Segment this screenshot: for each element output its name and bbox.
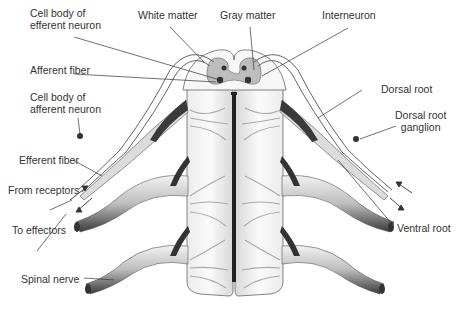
label-interneuron: Interneuron xyxy=(322,9,376,21)
label-dorsal-root: Dorsal root xyxy=(381,83,432,95)
label-to-effectors: To effectors xyxy=(12,224,66,236)
label-cell-body-efferent: Cell body of efferent neuron xyxy=(30,7,101,31)
dorsal-root-ganglion-right xyxy=(353,136,359,142)
label-white-matter: White matter xyxy=(138,9,198,21)
label-efferent-fiber: Efferent fiber xyxy=(19,154,79,166)
label-line: Cell body of xyxy=(30,7,101,19)
label-cell-body-afferent: Cell body of afferent neuron xyxy=(30,91,101,115)
label-dorsal-root-ganglion: Dorsal root ganglion xyxy=(395,109,446,133)
label-gray-matter: Gray matter xyxy=(220,9,275,21)
label-ventral-root: Ventral root xyxy=(397,222,451,234)
label-line: Cell body of xyxy=(30,91,101,103)
label-afferent-fiber: Afferent fiber xyxy=(30,64,90,76)
label-line: afferent neuron xyxy=(30,103,101,115)
label-line: efferent neuron xyxy=(30,19,101,31)
spinal-cord xyxy=(183,50,286,296)
label-line: ganglion xyxy=(395,121,446,133)
central-canal xyxy=(232,92,236,282)
label-spinal-nerve: Spinal nerve xyxy=(21,273,79,285)
label-line: Dorsal root xyxy=(395,109,446,121)
label-from-receptors: From receptors xyxy=(8,184,79,196)
